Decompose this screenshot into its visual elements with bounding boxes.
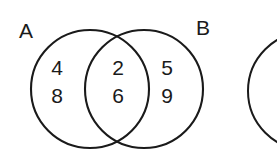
venn-diagram-canvas: A B 4 8 2 6 5 9 bbox=[0, 0, 277, 157]
set-a-label: A bbox=[19, 19, 33, 42]
venn-diagram-page: A B 4 8 2 6 5 9 bbox=[0, 0, 277, 157]
cut-off-circle bbox=[248, 32, 277, 150]
set-b-circle bbox=[85, 30, 203, 148]
set-a-circle bbox=[31, 30, 149, 148]
set-b-label: B bbox=[196, 16, 210, 39]
element-a-only-1: 4 bbox=[51, 56, 63, 79]
element-a-only-2: 8 bbox=[51, 84, 63, 107]
element-b-only-2: 9 bbox=[161, 84, 173, 107]
element-b-only-1: 5 bbox=[161, 56, 173, 79]
element-intersection-2: 6 bbox=[112, 84, 124, 107]
element-intersection-1: 2 bbox=[112, 56, 124, 79]
